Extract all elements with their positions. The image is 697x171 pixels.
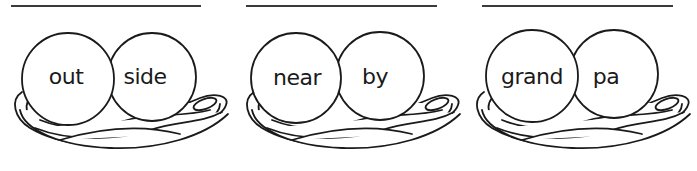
egg-word-left-1: out [49,64,84,89]
egg-word-right-2: by [362,64,388,89]
egg-word-right-1: side [123,64,166,89]
nest-panel-3: grand pa [462,0,697,171]
nest-panel-2: near by [232,0,467,171]
nest-with-eggs-icon [232,0,467,171]
egg-word-left-3: grand [501,64,563,89]
nest-panel-1: out side [0,0,235,171]
egg-word-left-2: near [273,65,321,90]
compound-word-worksheet: out side near by [0,0,697,171]
egg-word-right-3: pa [593,64,619,89]
nest-with-eggs-icon [0,0,235,171]
nest-with-eggs-icon [462,0,697,171]
